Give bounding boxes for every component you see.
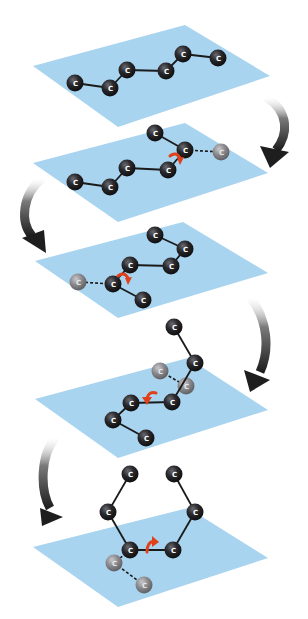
step-2: CCCCCCC — [33, 123, 268, 222]
catalyst-plane — [33, 508, 268, 607]
ghost-carbon-atom: C — [70, 274, 87, 291]
carbon-atom: C — [105, 276, 122, 293]
step-4: CCCCCCCC — [35, 319, 268, 459]
carbon-atom: C — [105, 412, 122, 429]
svg-text:C: C — [111, 417, 116, 425]
step-1: CCCCCC — [33, 25, 270, 127]
carbon-atom: C — [122, 466, 139, 483]
svg-text:C: C — [128, 471, 133, 479]
catalyst-plane — [33, 25, 270, 127]
svg-text:C: C — [164, 68, 169, 76]
carbon-atom: C — [166, 466, 183, 483]
svg-text:C: C — [183, 147, 188, 155]
step-3: CCCCCCC — [35, 222, 268, 318]
ghost-carbon-atom: C — [178, 378, 195, 395]
carbon-atom: C — [187, 355, 204, 372]
svg-text:C: C — [141, 297, 146, 305]
carbon-atom: C — [119, 62, 136, 79]
reaction-steps: CCCCCCCCCCCCCCCCCCCCCCCCCCCCCCCCCCCC — [33, 25, 270, 607]
svg-text:C: C — [171, 547, 176, 555]
ghost-carbon-atom: C — [136, 577, 153, 594]
svg-text:C: C — [73, 80, 78, 88]
svg-text:C: C — [153, 232, 158, 240]
svg-text:C: C — [73, 179, 78, 187]
svg-text:C: C — [166, 167, 171, 175]
svg-text:C: C — [193, 360, 198, 368]
ghost-carbon-atom: C — [213, 144, 230, 161]
step-5: CCCCCCCC — [33, 466, 268, 608]
carbon-atom: C — [122, 542, 139, 559]
svg-text:C: C — [184, 383, 189, 391]
carbon-atom: C — [160, 162, 177, 179]
carbon-atom: C — [119, 160, 136, 177]
carbon-atom: C — [210, 50, 227, 67]
arrow-step-1-to-2 — [260, 97, 289, 168]
carbon-atom: C — [158, 63, 175, 80]
carbon-atom: C — [164, 394, 181, 411]
svg-text:C: C — [172, 471, 177, 479]
svg-text:C: C — [193, 509, 198, 517]
svg-text:C: C — [128, 547, 133, 555]
carbon-atom: C — [163, 258, 180, 275]
carbon-atom: C — [123, 395, 140, 412]
svg-text:C: C — [169, 263, 174, 271]
svg-text:C: C — [125, 165, 130, 173]
svg-text:C: C — [158, 368, 163, 376]
ghost-carbon-atom: C — [106, 555, 123, 572]
svg-text:C: C — [125, 67, 130, 75]
svg-text:C: C — [144, 435, 149, 443]
svg-text:C: C — [216, 55, 221, 63]
carbon-atom: C — [102, 179, 119, 196]
arrow-step-3-to-4 — [244, 297, 270, 392]
svg-text:C: C — [172, 324, 177, 332]
carbon-atom: C — [175, 46, 192, 63]
carbon-atom: C — [102, 80, 119, 97]
svg-text:C: C — [142, 582, 147, 590]
svg-text:C: C — [183, 246, 188, 254]
carbon-atom: C — [67, 75, 84, 92]
svg-text:C: C — [219, 149, 224, 157]
svg-text:C: C — [181, 51, 186, 59]
svg-text:C: C — [170, 399, 175, 407]
carbon-atom: C — [147, 125, 164, 142]
svg-text:C: C — [108, 85, 113, 93]
svg-text:C: C — [76, 279, 81, 287]
svg-text:C: C — [108, 184, 113, 192]
carbon-atom: C — [138, 430, 155, 447]
svg-text:C: C — [153, 130, 158, 138]
carbon-atom: C — [147, 227, 164, 244]
carbon-atom: C — [187, 504, 204, 521]
svg-text:C: C — [112, 560, 117, 568]
svg-text:C: C — [111, 281, 116, 289]
carbon-atom: C — [135, 292, 152, 309]
arrow-step-4-to-5 — [40, 437, 63, 526]
carbon-atom: C — [166, 319, 183, 336]
carbon-atom: C — [67, 174, 84, 191]
svg-text:C: C — [129, 400, 134, 408]
carbon-atom: C — [122, 257, 139, 274]
arrow-step-2-to-3 — [22, 178, 46, 253]
ghost-carbon-atom: C — [152, 363, 169, 380]
carbon-atom: C — [100, 504, 117, 521]
carbon-atom: C — [165, 542, 182, 559]
carbon-atom: C — [177, 241, 194, 258]
svg-text:C: C — [128, 262, 133, 270]
svg-text:C: C — [106, 509, 111, 517]
cyclization-diagram: CCCCCCCCCCCCCCCCCCCCCCCCCCCCCCCCCCCC — [0, 0, 308, 619]
